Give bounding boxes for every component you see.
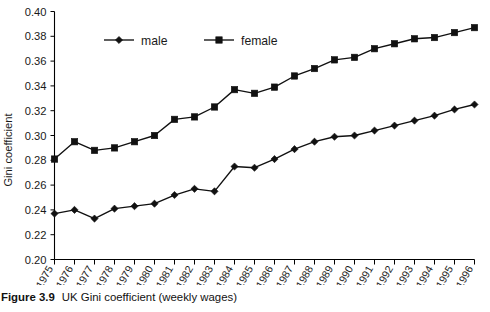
data-point-male-1986 [271, 155, 278, 162]
data-point-male-1995 [451, 106, 458, 113]
data-point-female-1989 [331, 57, 337, 63]
x-tick-label: 1975 [33, 263, 55, 285]
y-tick-label: 0.38 [25, 30, 47, 42]
data-point-male-1981 [171, 191, 178, 198]
y-axis-title-label: Gini coefficient [2, 113, 14, 187]
legend-label-male: male [141, 34, 168, 48]
data-point-male-1990 [351, 132, 358, 139]
x-tick-label: 1993 [393, 263, 415, 285]
data-point-female-1978 [111, 145, 117, 151]
y-tick-label: 0.36 [25, 55, 47, 67]
data-point-female-1995 [451, 29, 457, 35]
y-tick-label: 0.22 [25, 229, 47, 241]
x-tick-label: 1982 [173, 263, 195, 285]
data-point-female-1993 [411, 36, 417, 42]
data-point-male-1979 [131, 203, 138, 210]
x-tick-label: 1986 [253, 263, 275, 285]
data-point-male-1985 [251, 164, 258, 171]
gini-coefficient-line-chart: Gini coefficient 0.200.220.240.260.280.3… [0, 0, 490, 285]
data-point-female-1994 [431, 34, 437, 40]
data-point-female-1976 [71, 139, 77, 145]
data-point-male-1976 [71, 206, 78, 213]
data-point-male-1975 [51, 210, 58, 217]
x-tick-label: 1976 [53, 263, 75, 285]
data-point-female-1984 [231, 86, 237, 92]
data-point-female-1987 [291, 73, 297, 79]
data-point-female-1985 [251, 90, 257, 96]
figure-container: Gini coefficient 0.200.220.240.260.280.3… [0, 0, 490, 312]
y-tick-label: 0.26 [25, 179, 47, 191]
figure-caption: Figure 3.9UK Gini coefficient (weekly wa… [1, 290, 489, 305]
x-tick-label: 1979 [113, 263, 135, 285]
data-point-female-1975 [51, 156, 57, 162]
x-tick-label: 1991 [353, 263, 375, 285]
legend-item-male[interactable]: male [104, 34, 168, 48]
x-tick-label: 1981 [153, 263, 175, 285]
data-point-female-1977 [91, 147, 97, 153]
data-series-layer [51, 24, 478, 222]
data-point-female-1980 [151, 132, 157, 138]
x-tick-label: 1977 [73, 263, 95, 285]
x-tick-label: 1984 [213, 263, 235, 285]
legend-marker-female [216, 37, 222, 43]
y-tick-label: 0.28 [25, 154, 47, 166]
data-point-male-1989 [331, 133, 338, 140]
x-axis-ticks: 1975197619771978197919801981198219831984… [33, 260, 475, 286]
x-tick-label: 1994 [413, 263, 435, 285]
y-tick-label: 0.30 [25, 130, 47, 142]
data-point-male-1991 [371, 127, 378, 134]
data-point-male-1988 [311, 138, 318, 145]
x-tick-label: 1988 [293, 263, 315, 285]
data-point-male-1977 [91, 215, 98, 222]
y-axis-ticks: 0.200.220.240.260.280.300.320.340.360.38… [25, 6, 55, 266]
x-tick-label: 1985 [233, 263, 255, 285]
data-point-female-1986 [271, 84, 277, 90]
y-tick-label: 0.32 [25, 105, 47, 117]
legend-item-female[interactable]: female [204, 34, 278, 48]
data-point-female-1991 [371, 46, 377, 52]
data-point-male-1987 [291, 146, 298, 153]
data-point-female-1996 [471, 24, 477, 30]
y-axis-title: Gini coefficient [2, 113, 14, 187]
data-point-female-1988 [311, 65, 317, 71]
data-point-female-1981 [171, 116, 177, 122]
legend-label-female: female [241, 34, 278, 48]
data-point-male-1992 [391, 122, 398, 129]
legend-marker-male [115, 36, 122, 43]
data-point-female-1982 [191, 114, 197, 120]
x-tick-label: 1987 [273, 263, 295, 285]
x-tick-label: 1992 [373, 263, 395, 285]
data-point-male-1996 [471, 101, 478, 108]
data-point-male-1982 [191, 185, 198, 192]
data-point-female-1983 [211, 104, 217, 110]
data-point-male-1978 [111, 205, 118, 212]
data-point-female-1979 [131, 139, 137, 145]
x-tick-label: 1995 [433, 263, 455, 285]
x-tick-label: 1980 [133, 263, 155, 285]
series-male [51, 101, 478, 222]
y-tick-label: 0.40 [25, 6, 47, 18]
chart-plot-area: Gini coefficient 0.200.220.240.260.280.3… [0, 0, 490, 285]
chart-legend: malefemale [104, 34, 278, 48]
data-point-male-1980 [151, 200, 158, 207]
x-tick-label: 1978 [93, 263, 115, 285]
figure-caption-text: UK Gini coefficient (weekly wages) [62, 291, 237, 303]
x-tick-label: 1996 [453, 263, 475, 285]
data-point-male-1993 [411, 117, 418, 124]
y-tick-label: 0.34 [25, 80, 47, 92]
x-tick-label: 1983 [193, 263, 215, 285]
y-tick-label: 0.24 [25, 204, 47, 216]
figure-caption-label: Figure 3.9 [1, 291, 55, 303]
y-tick-label: 0.20 [25, 254, 47, 266]
data-point-female-1990 [351, 54, 357, 60]
data-point-male-1994 [431, 112, 438, 119]
x-tick-label: 1989 [313, 263, 335, 285]
data-point-female-1992 [391, 41, 397, 47]
x-tick-label: 1990 [333, 263, 355, 285]
